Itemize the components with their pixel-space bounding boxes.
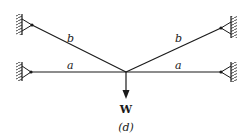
member-a-left-label: a — [67, 59, 74, 72]
member-b-right — [126, 28, 221, 72]
member-a-right-label: a — [175, 59, 182, 72]
member-b-left — [32, 25, 126, 72]
lower-left-wall-support — [16, 62, 33, 81]
member-b-left-label: b — [67, 32, 74, 45]
load-label: W — [119, 103, 133, 116]
member-b-right-label: b — [175, 32, 182, 45]
load-arrow-icon — [123, 72, 130, 99]
figure-caption: (d) — [118, 121, 134, 134]
upper-left-wall-support — [16, 14, 34, 35]
truss-diagram: b a b a W (d) — [0, 0, 252, 137]
upper-right-wall-support — [219, 16, 237, 38]
lower-right-wall-support — [219, 62, 237, 82]
